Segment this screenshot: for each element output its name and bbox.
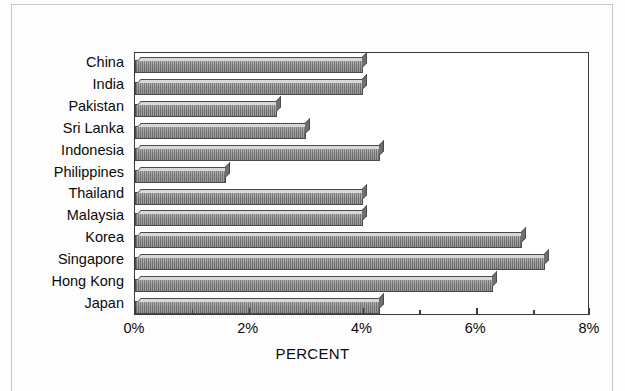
x-tick-minor	[306, 310, 307, 315]
x-tick-minor	[533, 310, 534, 315]
plot-area	[134, 52, 589, 315]
bar-pakistan	[135, 104, 277, 117]
bar-row	[135, 232, 588, 250]
bar-row	[135, 210, 588, 228]
x-tick-minor	[192, 310, 193, 315]
x-tick-label-8: 8%	[579, 320, 600, 336]
y-label-indonesia: Indonesia	[0, 143, 124, 158]
y-label-thailand: Thailand	[0, 186, 124, 201]
bar-china	[135, 60, 363, 73]
bar-philippines	[135, 170, 226, 183]
y-label-korea: Korea	[0, 230, 124, 245]
bar-singapore	[135, 257, 545, 270]
bar-hong-kong	[135, 279, 493, 292]
y-axis-category-labels: ChinaIndiaPakistanSri LankaIndonesiaPhil…	[0, 52, 130, 315]
x-tick-minor	[419, 310, 420, 315]
chart-figure: ChinaIndiaPakistanSri LankaIndonesiaPhil…	[0, 0, 625, 391]
x-tick-label-2: 2%	[237, 320, 258, 336]
bar-row	[135, 123, 588, 141]
x-tick-label-4: 4%	[351, 320, 372, 336]
y-label-singapore: Singapore	[0, 252, 124, 267]
x-tick-major	[363, 308, 364, 315]
bar-row	[135, 145, 588, 163]
x-tick-major	[249, 308, 250, 315]
bar-row	[135, 298, 588, 316]
bar-japan	[135, 301, 380, 314]
x-tick-label-0: 0%	[124, 320, 145, 336]
bar-row	[135, 276, 588, 294]
x-tick-label-6: 6%	[465, 320, 486, 336]
bar-thailand	[135, 192, 363, 205]
y-label-china: China	[0, 55, 124, 70]
bar-row	[135, 57, 588, 75]
plot-wrapper	[134, 52, 589, 315]
bar-malaysia	[135, 213, 363, 226]
y-label-india: India	[0, 77, 124, 92]
y-label-pakistan: Pakistan	[0, 99, 124, 114]
x-axis-title: PERCENT	[0, 345, 625, 362]
x-tick-major	[476, 308, 477, 315]
bar-row	[135, 189, 588, 207]
bar-indonesia	[135, 148, 380, 161]
y-label-malaysia: Malaysia	[0, 208, 124, 223]
y-label-philippines: Philippines	[0, 165, 124, 180]
bar-india	[135, 82, 363, 95]
bar-row	[135, 167, 588, 185]
bar-sri-lanka	[135, 126, 306, 139]
y-label-japan: Japan	[0, 296, 124, 311]
y-label-hong-kong: Hong Kong	[0, 274, 124, 289]
y-label-sri-lanka: Sri Lanka	[0, 121, 124, 136]
x-tick-major	[589, 308, 590, 315]
bar-row	[135, 254, 588, 272]
x-tick-major	[135, 308, 136, 315]
bar-row	[135, 101, 588, 119]
bar-korea	[135, 235, 522, 248]
bar-row	[135, 79, 588, 97]
